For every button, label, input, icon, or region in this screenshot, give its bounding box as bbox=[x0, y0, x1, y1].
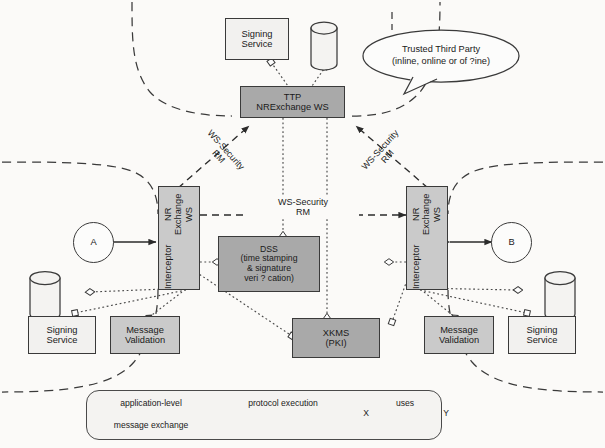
legend-uses-to-text: Y bbox=[440, 408, 452, 418]
left-msgval-line1: Message bbox=[125, 325, 165, 335]
right-signing-line1: Signing bbox=[526, 325, 557, 335]
xkms-line2: (PKI) bbox=[323, 338, 349, 348]
callout-line2: (inline, online or of ?ine) bbox=[369, 56, 513, 68]
legend-app-line1: application-level bbox=[96, 398, 206, 408]
dss-line4: veri ? cation) bbox=[241, 274, 298, 284]
xkms-box[interactable]: XKMS (PKI) bbox=[292, 318, 380, 358]
ttp-ws-line1: TTP bbox=[256, 92, 328, 102]
ttp-nrexchange-ws-box[interactable]: TTP NRExchange WS bbox=[240, 86, 345, 118]
ttp-ws-line2: NRExchange WS bbox=[256, 102, 328, 112]
left-signing-line1: Signing bbox=[46, 325, 77, 335]
left-signing-service-box[interactable]: Signing Service bbox=[28, 316, 96, 354]
interceptor-left-line1: Interceptor bbox=[163, 245, 194, 289]
legend-app-line2: message exchange bbox=[94, 420, 208, 430]
party-b-label: B bbox=[508, 237, 514, 247]
legend-uses-text: uses bbox=[388, 398, 422, 408]
center-channel-label: WS-Security RM bbox=[247, 197, 359, 218]
legend-protocol-execution-label: protocol execution bbox=[228, 398, 338, 408]
right-signing-service-box[interactable]: Signing Service bbox=[508, 316, 576, 354]
interceptor-right-line1: Interceptor bbox=[411, 245, 442, 289]
left-msgval-line2: Validation bbox=[125, 335, 165, 345]
trusted-third-party-callout-text: Trusted Third Party (inline, online or o… bbox=[369, 44, 513, 68]
legend-uses-from-text: X bbox=[360, 408, 372, 418]
ttp-signing-service-box[interactable]: Signing Service bbox=[225, 18, 289, 60]
diagram-canvas: Signing Service TTP NRExchange WS Truste… bbox=[0, 0, 605, 448]
left-message-validation-box[interactable]: Message Validation bbox=[110, 316, 180, 354]
ttp-signing-service-line1: Signing bbox=[241, 29, 272, 39]
interceptor-right-line2: NR Exchange WS bbox=[411, 187, 442, 243]
callout-line1: Trusted Third Party bbox=[369, 44, 513, 56]
xkms-line1: XKMS bbox=[323, 328, 349, 338]
legend-protocol-text: protocol execution bbox=[228, 398, 338, 408]
ttp-signing-service-line2: Service bbox=[241, 39, 272, 49]
center-channel-line1: WS-Security bbox=[247, 197, 359, 207]
legend-uses-to: Y bbox=[440, 408, 452, 418]
legend-uses-label: uses bbox=[388, 398, 422, 408]
center-channel-line2: RM bbox=[247, 207, 359, 217]
left-signing-line2: Service bbox=[46, 335, 77, 345]
legend-uses-from: X bbox=[360, 408, 372, 418]
party-a-label: A bbox=[90, 237, 96, 247]
party-a-circle[interactable]: A bbox=[73, 222, 114, 263]
interceptor-right-box[interactable]: Interceptor NR Exchange WS bbox=[406, 186, 448, 290]
right-message-validation-box[interactable]: Message Validation bbox=[424, 316, 494, 354]
right-signing-line2: Service bbox=[526, 335, 557, 345]
right-msgval-line1: Message bbox=[439, 325, 479, 335]
legend-message-exchange-label: message exchange bbox=[94, 420, 208, 430]
dss-box[interactable]: DSS (time stamping & signature veri ? ca… bbox=[218, 236, 320, 292]
interceptor-left-line2: NR Exchange WS bbox=[163, 187, 194, 243]
right-msgval-line2: Validation bbox=[439, 335, 479, 345]
interceptor-left-box[interactable]: Interceptor NR Exchange WS bbox=[158, 186, 200, 290]
party-b-circle[interactable]: B bbox=[491, 222, 532, 263]
legend-application-level-label: application-level bbox=[96, 398, 206, 408]
